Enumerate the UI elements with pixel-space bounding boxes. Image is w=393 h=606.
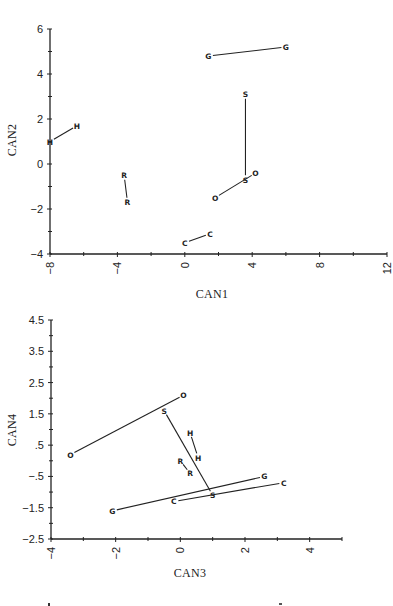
x-tick-label: −2: [110, 547, 122, 560]
point-label: O: [212, 194, 218, 203]
x-tick-label: 4: [304, 547, 316, 553]
y-axis-title: CAN2: [5, 124, 19, 157]
point-label: R: [121, 171, 127, 180]
y-tick-label: 4: [37, 68, 43, 80]
scatter-plot-1: −4−20246−8−404812CAN1CAN2HHRRGGSSOOCC: [5, 23, 393, 301]
point-label: O: [180, 391, 186, 400]
series-g: GG: [109, 472, 267, 515]
series-r: RR: [121, 171, 130, 207]
y-tick-label: 2.5: [29, 377, 44, 389]
y-tick-label: 6: [37, 23, 43, 35]
point-label: G: [283, 43, 289, 52]
y-tick-label: 0: [37, 158, 43, 170]
x-tick-label: −4: [111, 262, 123, 275]
x-axis-title: CAN3: [174, 566, 207, 580]
y-tick-label: 3.5: [29, 345, 44, 357]
point-label: R: [125, 198, 131, 207]
point-label: G: [261, 472, 267, 481]
point-label: G: [205, 52, 211, 61]
x-tick-label: 4: [246, 262, 258, 268]
point-label: C: [171, 497, 177, 506]
series-c: CC: [171, 479, 287, 507]
x-tick-label: 0: [179, 262, 191, 268]
x-tick-label: 0: [174, 547, 186, 553]
series-s: SS: [243, 90, 248, 185]
y-tick-label: −2.5: [22, 533, 44, 545]
series-c: CC: [182, 230, 213, 248]
series-h: HH: [47, 122, 80, 147]
point-label: R: [177, 457, 183, 466]
point-label: H: [195, 454, 201, 463]
y-tick-label: .5: [35, 439, 44, 451]
y-tick-label: 2: [37, 113, 43, 125]
scatter-plot-2: 4.53.52.51.5.5−.5−1.5−2.5−4−2024CAN3CAN4…: [5, 314, 342, 580]
point-label: S: [243, 90, 248, 99]
series-h: HH: [187, 429, 201, 463]
point-label: S: [161, 407, 166, 416]
point-label: G: [109, 507, 115, 516]
point-label: O: [252, 169, 258, 178]
x-axis-title: CAN1: [196, 287, 229, 301]
point-label: C: [281, 479, 287, 488]
point-label: C: [207, 230, 213, 239]
next-figure-fragment: [279, 603, 282, 605]
x-tick-label: −8: [44, 262, 56, 275]
point-label: H: [187, 429, 193, 438]
point-label: O: [67, 451, 73, 460]
y-axis-title: CAN4: [5, 414, 19, 447]
point-label: H: [74, 122, 80, 131]
figure-canvas: −4−20246−8−404812CAN1CAN2HHRRGGSSOOCC4.5…: [0, 0, 393, 606]
y-tick-label: 1.5: [29, 408, 44, 420]
x-tick-label: 12: [381, 262, 393, 274]
series-s: SS: [161, 407, 215, 500]
y-tick-label: −4: [30, 248, 43, 260]
point-label: R: [187, 469, 193, 478]
point-label: C: [182, 239, 188, 248]
x-tick-label: −4: [45, 547, 57, 560]
y-tick-label: 4.5: [29, 314, 44, 326]
series-o: OO: [67, 391, 187, 459]
x-tick-label: 8: [314, 262, 326, 268]
y-tick-label: −1.5: [22, 502, 44, 514]
point-label: H: [47, 138, 53, 147]
series-r: RR: [177, 457, 193, 479]
series-o: OO: [212, 169, 259, 203]
y-tick-label: −2: [30, 203, 43, 215]
y-tick-label: −.5: [28, 470, 44, 482]
x-tick-label: 2: [239, 547, 251, 553]
series-g: GG: [205, 43, 289, 61]
